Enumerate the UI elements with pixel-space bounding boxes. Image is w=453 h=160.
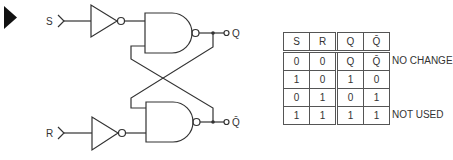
note-no-change: NO CHANGE [392,55,453,66]
header-qbar: Q̄ [364,33,390,52]
table-row: 1 1 1 1 [284,107,390,125]
cell: 0 [310,52,337,71]
cell: 1 [310,89,337,107]
cell: 0 [284,52,310,71]
feedback-q-to-bottom [131,33,213,108]
s-input-label: S [46,16,53,27]
top-nand-gate [145,13,192,53]
cell: 1 [364,89,390,107]
cell: Q̄ [364,52,390,71]
table-row: 0 1 0 1 [284,89,390,107]
cell: 0 [337,89,364,107]
qbar-output-label: Q̄ [232,116,240,128]
bottom-nand-gate [146,102,193,142]
cell: 1 [310,107,337,125]
play-triangle-icon [4,6,17,29]
feedback-qbar-to-top [131,46,213,122]
truth-table: S R Q Q̄ 0 0 Q Q̄ 1 0 1 0 0 1 0 1 1 1 1 [283,32,390,125]
cell: 0 [284,89,310,107]
table-row: 1 0 1 0 [284,71,390,89]
header-s: S [284,33,310,52]
cell: 0 [310,71,337,89]
cell: Q [337,52,364,71]
q-output-label: Q [232,28,240,39]
header-r: R [310,33,337,52]
table-row: 0 0 Q Q̄ [284,52,390,71]
cell: 1 [337,71,364,89]
cell: 0 [364,71,390,89]
cell: 1 [284,71,310,89]
top-inverter [91,5,117,37]
note-not-used: NOT USED [392,109,444,120]
r-input-arrow [58,127,64,139]
r-input-label: R [46,128,53,139]
bottom-inverter [92,117,118,150]
cell: 1 [284,107,310,125]
header-q: Q [337,33,364,52]
truth-table-header: S R Q Q̄ [284,33,390,52]
cell: 1 [337,107,364,125]
s-input-arrow [58,15,64,27]
sr-latch-circuit: S R Q Q̄ [0,0,270,160]
cell: 1 [364,107,390,125]
